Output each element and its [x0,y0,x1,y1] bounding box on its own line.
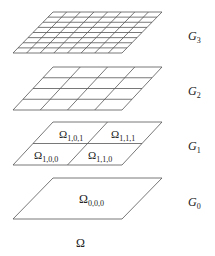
level-label-g1: G1 [188,139,201,155]
level-g3-grid [13,12,162,53]
level-label-g0: G0 [188,195,201,211]
grid-line [13,178,53,219]
cell-label-1-1-1: Ω1,1,1 [111,128,135,143]
level-label-g2: G2 [188,84,201,100]
cell-label-1-1-0: Ω1,1,0 [88,149,112,164]
cell-label-0-0-0: Ω0,0,0 [79,192,104,208]
grid-line [122,178,162,219]
level-label-g3: G3 [188,29,201,45]
domain-label-omega: Ω [76,236,85,250]
cell-label-1-0-1: Ω1,0,1 [59,128,83,143]
grid-hierarchy-diagram: Ω1,0,1 Ω1,1,1 Ω1,0,0 Ω1,1,0 Ω0,0,0 G3 G2… [0,0,215,256]
cell-label-1-0-0: Ω1,0,0 [34,149,58,164]
level-g2-grid [13,67,162,110]
